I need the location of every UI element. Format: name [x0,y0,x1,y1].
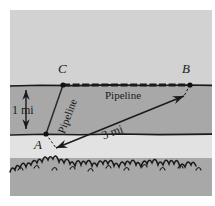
point-marker-b [187,82,192,87]
point-label-c: C [58,62,67,75]
label-pipeline-horizontal: Pipeline [105,90,141,101]
label-one-mile: 1 mi [12,104,34,116]
point-marker-c [60,82,65,87]
point-label-b: B [182,62,190,75]
point-marker-a [43,131,48,136]
pipeline-figure: C B A 1 mi 3 mi Pipeline Pipeline [0,0,215,206]
point-label-a: A [34,138,42,151]
